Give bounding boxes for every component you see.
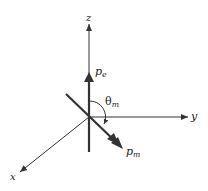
dipole-coordinate-diagram — [0, 0, 208, 191]
x-axis-label: x — [10, 172, 16, 182]
theta-angle-label: θm — [105, 96, 119, 109]
y-axis-label: y — [191, 111, 197, 122]
magnetic-dipole-label: pm — [126, 146, 140, 159]
magnetic-dipole-subscript: m — [133, 150, 140, 159]
x-axis — [20, 117, 89, 172]
theta-subscript: m — [112, 100, 119, 109]
theta-angle-arc — [89, 101, 106, 124]
magnetic-dipole-symbol: p — [126, 145, 133, 158]
z-axis-label: z — [86, 13, 91, 23]
electric-dipole-label: pe — [95, 66, 107, 79]
electric-dipole-symbol: p — [95, 65, 102, 78]
theta-symbol: θ — [105, 95, 112, 108]
electric-dipole-subscript: e — [102, 70, 107, 79]
